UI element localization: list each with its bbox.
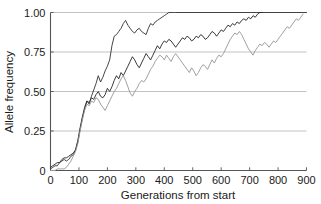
x-tick-label-4: 400 bbox=[155, 174, 173, 186]
y-tick-label-0: 0 bbox=[39, 165, 45, 177]
x-tick-label-9: 900 bbox=[297, 174, 315, 186]
x-tick-label-8: 800 bbox=[269, 174, 287, 186]
x-tick-label-6: 600 bbox=[212, 174, 230, 186]
x-tick-label-2: 200 bbox=[98, 174, 116, 186]
x-axis-title: Generations from start bbox=[121, 189, 236, 201]
x-tick-label-5: 500 bbox=[184, 174, 202, 186]
y-tick-label-1: 0.25 bbox=[24, 125, 45, 137]
y-tick-label-2: 0.50 bbox=[24, 86, 45, 98]
x-tick-label-7: 700 bbox=[240, 174, 258, 186]
allele-frequency-line-chart: 00.250.500.751.00 0100200300400500600700… bbox=[0, 0, 321, 204]
y-tick-label-4: 1.00 bbox=[24, 7, 45, 19]
x-tick-label-1: 100 bbox=[70, 174, 88, 186]
chart-figure: 00.250.500.751.00 0100200300400500600700… bbox=[0, 0, 321, 204]
y-tick-label-3: 0.75 bbox=[24, 46, 45, 58]
x-tick-label-0: 0 bbox=[47, 174, 53, 186]
y-axis-title: Allele frequency bbox=[3, 51, 15, 133]
x-tick-label-3: 300 bbox=[127, 174, 145, 186]
